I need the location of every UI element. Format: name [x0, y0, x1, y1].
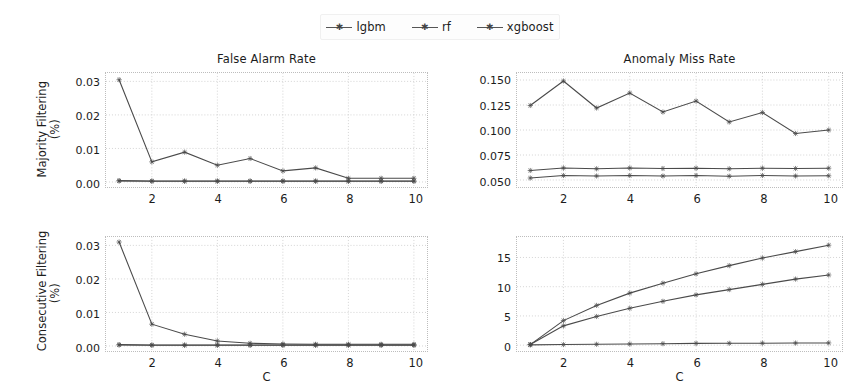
- data-point-xgboost: [313, 179, 318, 184]
- subplot-false-alarm-consecutive: Consecutive Filtering(%) 0.000.010.020.0…: [105, 236, 428, 352]
- x-axis-tick-label: 2: [560, 192, 567, 206]
- y-axis-tick-label: 0.03: [76, 75, 101, 88]
- x-axis-tick-label: 8: [346, 192, 353, 206]
- subplot-anomaly-miss-majority: Anomaly Miss Rate 0.0500.0750.1000.1250.…: [516, 72, 843, 188]
- data-point-lgbm: [760, 341, 765, 346]
- y-axis-tick-label: 0.125: [480, 99, 512, 112]
- x-axis-tick-label: 6: [280, 356, 287, 370]
- legend-item-lgbm[interactable]: ✱ lgbm: [326, 20, 385, 34]
- x-axis-tick-label: 4: [627, 356, 634, 370]
- data-point-xgboost: [693, 292, 698, 297]
- data-point-lgbm: [561, 342, 566, 347]
- data-point-xgboost: [149, 179, 154, 184]
- series-line-lgbm: [119, 80, 414, 179]
- data-point-xgboost: [182, 343, 187, 348]
- x-axis-tick-label: 6: [694, 356, 701, 370]
- data-point-xgboost: [693, 173, 698, 178]
- y-axis-tick-label: 10: [497, 281, 511, 294]
- data-point-xgboost: [826, 173, 831, 178]
- data-point-xgboost: [379, 343, 384, 348]
- legend-label: lgbm: [356, 20, 385, 34]
- data-point-xgboost: [215, 179, 220, 184]
- data-point-lgbm: [117, 77, 122, 82]
- data-point-lgbm: [149, 322, 154, 327]
- data-point-lgbm: [627, 341, 632, 346]
- data-point-xgboost: [561, 173, 566, 178]
- subplot-false-alarm-majority: False Alarm Rate Majority Filtering(%) 0…: [105, 72, 428, 188]
- data-point-xgboost: [594, 314, 599, 319]
- data-point-lgbm: [727, 341, 732, 346]
- legend-label: rf: [442, 20, 451, 34]
- data-point-xgboost: [727, 174, 732, 179]
- data-point-lgbm: [280, 168, 285, 173]
- data-point-lgbm: [313, 165, 318, 170]
- x-axis-tick-label: 6: [694, 192, 701, 206]
- data-point-rf: [594, 303, 599, 308]
- data-point-rf: [793, 166, 798, 171]
- y-axis-tick-label: 0: [504, 341, 511, 354]
- y-axis-tick-label: 0.00: [76, 177, 101, 190]
- data-point-xgboost: [594, 173, 599, 178]
- data-point-lgbm: [215, 163, 220, 168]
- data-point-rf: [561, 318, 566, 323]
- data-point-rf: [693, 271, 698, 276]
- data-point-xgboost: [411, 343, 416, 348]
- plot-area: 0.000.010.020.03246810: [105, 236, 428, 352]
- star-marker-icon: ✱: [412, 22, 438, 32]
- plot-area: 0.000.010.020.03246810: [105, 72, 428, 188]
- data-point-rf: [760, 166, 765, 171]
- data-point-xgboost: [215, 343, 220, 348]
- y-axis-tick-label: 0.00: [76, 341, 101, 354]
- data-point-xgboost: [727, 287, 732, 292]
- data-point-rf: [627, 291, 632, 296]
- x-axis-tick-label: 10: [823, 356, 838, 370]
- data-point-lgbm: [826, 127, 831, 132]
- y-axis-label-line1: Majority Filtering: [35, 81, 49, 177]
- x-axis-tick-label: 4: [214, 356, 221, 370]
- legend-label: xgboost: [507, 20, 554, 34]
- data-point-lgbm: [627, 90, 632, 95]
- data-point-xgboost: [182, 179, 187, 184]
- data-point-rf: [528, 168, 533, 173]
- data-point-xgboost: [313, 343, 318, 348]
- data-point-xgboost: [280, 343, 285, 348]
- x-axis-tick-label: 8: [760, 192, 767, 206]
- data-point-rf: [627, 165, 632, 170]
- x-axis-tick-label: 4: [627, 192, 634, 206]
- series-line-lgbm: [530, 343, 828, 345]
- series-line-lgbm: [530, 81, 828, 134]
- y-axis-tick-label: 0.02: [76, 273, 101, 286]
- x-axis-tick-label: 2: [560, 356, 567, 370]
- plot-area: 0.0500.0750.1000.1250.150246810: [516, 72, 843, 188]
- x-axis-label: C: [105, 370, 428, 384]
- data-point-lgbm: [793, 131, 798, 136]
- data-point-xgboost: [793, 277, 798, 282]
- data-point-xgboost: [561, 323, 566, 328]
- data-point-lgbm: [594, 342, 599, 347]
- data-point-xgboost: [411, 179, 416, 184]
- data-point-xgboost: [149, 343, 154, 348]
- legend-item-xgboost[interactable]: ✱ xgboost: [477, 20, 554, 34]
- data-point-lgbm: [149, 159, 154, 164]
- data-point-lgbm: [727, 119, 732, 124]
- chart-legend: ✱ lgbm ✱ rf ✱ xgboost: [320, 14, 560, 40]
- data-point-lgbm: [594, 105, 599, 110]
- subplot-title: Anomaly Miss Rate: [516, 52, 843, 66]
- subplot-title: False Alarm Rate: [105, 52, 428, 66]
- data-point-xgboost: [627, 173, 632, 178]
- plot-area: 051015246810: [516, 236, 843, 352]
- x-axis-tick-label: 4: [214, 192, 221, 206]
- y-axis-label: Consecutive Filtering(%): [36, 235, 62, 351]
- legend-item-rf[interactable]: ✱ rf: [412, 20, 451, 34]
- data-point-lgbm: [528, 103, 533, 108]
- data-point-rf: [727, 263, 732, 268]
- data-point-rf: [727, 166, 732, 171]
- data-point-xgboost: [826, 272, 831, 277]
- data-point-xgboost: [280, 179, 285, 184]
- y-axis-tick-label: 0.01: [76, 143, 101, 156]
- data-point-xgboost: [660, 173, 665, 178]
- y-axis-tick-label: 0.075: [480, 150, 512, 163]
- y-axis-tick-label: 0.01: [76, 307, 101, 320]
- data-point-xgboost: [346, 179, 351, 184]
- y-axis-tick-label: 5: [504, 311, 511, 324]
